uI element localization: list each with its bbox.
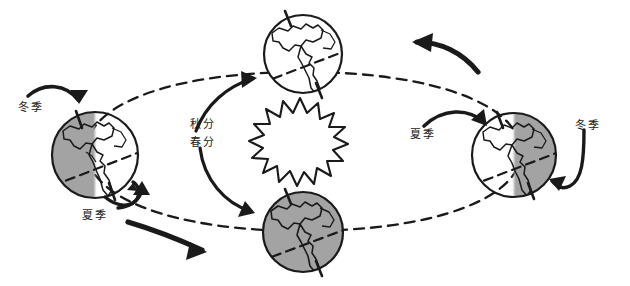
globe-bottom xyxy=(258,189,349,276)
label-winter-left: 冬季 xyxy=(18,101,43,115)
globe-top xyxy=(259,11,348,98)
label-autumn-equinox: 秋分 xyxy=(190,118,215,132)
leader-arrow-spring-equinox xyxy=(200,148,255,217)
orbit-direction-arrow-bottom xyxy=(128,222,207,260)
label-winter-right: 冬季 xyxy=(575,119,600,133)
globe-left xyxy=(50,108,140,205)
diagram-canvas xyxy=(0,0,630,286)
label-spring-equinox: 春分 xyxy=(190,136,215,150)
seasons-diagram: 冬季 夏季 秋分 春分 夏季 冬季 xyxy=(0,0,630,286)
leader-arrow-summer-right xyxy=(424,109,487,126)
label-summer-right: 夏季 xyxy=(410,128,435,142)
sun-icon xyxy=(249,98,348,186)
orbit-direction-arrow-top xyxy=(412,33,478,72)
label-summer-left: 夏季 xyxy=(82,209,107,223)
